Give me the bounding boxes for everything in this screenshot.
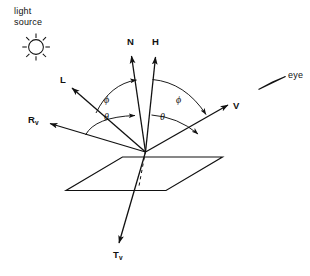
surface-plane bbox=[66, 157, 223, 191]
vector-label-N: N bbox=[127, 36, 134, 47]
surface-normal-vector bbox=[132, 56, 146, 152]
phi-right-label: ϕ bbox=[176, 94, 181, 105]
light-source-line1: light bbox=[14, 6, 32, 16]
theta-right-label: θ bbox=[160, 111, 165, 122]
transmission-vector bbox=[119, 152, 146, 243]
phi-left-arc bbox=[96, 80, 137, 113]
theta-left-label: θ bbox=[104, 111, 109, 122]
diagram-canvas: light source N H L V Rv Tv ϕ ϕ θ θ eye bbox=[0, 0, 310, 276]
halfway-vector bbox=[146, 57, 156, 152]
eye-arrow-icon bbox=[259, 77, 286, 90]
vector-label-Rv-sub: v bbox=[35, 119, 39, 126]
theta-right-arc bbox=[152, 115, 199, 134]
theta-left-arc bbox=[86, 116, 136, 136]
light-source-line2: source bbox=[14, 17, 42, 27]
sun-icon bbox=[22, 34, 50, 61]
eye-label: eye bbox=[288, 70, 303, 81]
vector-label-Rv-base: R bbox=[28, 114, 35, 125]
vector-label-V: V bbox=[233, 100, 240, 111]
vector-label-L: L bbox=[60, 74, 66, 85]
vector-label-Rv: Rv bbox=[28, 114, 39, 128]
light-source-label: light source bbox=[14, 6, 42, 28]
view-direction-vector bbox=[146, 105, 229, 152]
phi-left-label: ϕ bbox=[104, 94, 109, 105]
vector-label-Tv: Tv bbox=[113, 249, 123, 263]
vector-label-H: H bbox=[152, 36, 159, 47]
reflection-vector bbox=[50, 124, 146, 153]
vector-label-Tv-sub: v bbox=[119, 254, 123, 261]
